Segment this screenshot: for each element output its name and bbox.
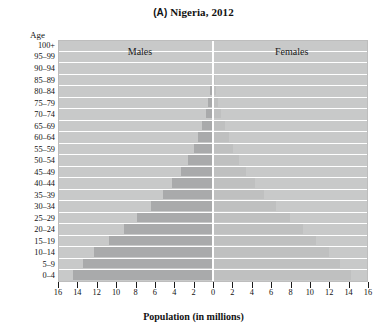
y-tick-label-70-74: 70–74 xyxy=(3,110,55,119)
y-tick-label-75-79: 75–79 xyxy=(3,99,55,108)
y-tick-label-30-34: 30–34 xyxy=(3,202,55,211)
age-axis-title: Age xyxy=(30,30,45,40)
y-tick-label-95-99: 95–99 xyxy=(3,52,55,61)
bar-female-15-19 xyxy=(213,236,316,245)
y-tick-label-15-19: 15–19 xyxy=(3,237,55,246)
y-tick-label-35-39: 35–39 xyxy=(3,191,55,200)
bar-female-75-79 xyxy=(213,98,218,107)
y-tick-label-45-49: 45–49 xyxy=(3,168,55,177)
y-tick-label-80-84: 80–84 xyxy=(3,87,55,96)
bar-male-25-29 xyxy=(137,213,213,222)
bar-male-55-59 xyxy=(194,144,213,153)
x-axis: 1614121086420246810121416 xyxy=(58,282,368,292)
x-axis-title: Population (in millions) xyxy=(0,311,387,322)
x-tick-label-10: 4 xyxy=(242,288,262,297)
bar-male-60-64 xyxy=(198,132,213,141)
bar-male-20-24 xyxy=(124,224,213,233)
x-tick-label-15: 14 xyxy=(339,288,359,297)
x-tick-label-9: 2 xyxy=(222,288,242,297)
bar-female-25-29 xyxy=(213,213,290,222)
bar-female-50-54 xyxy=(213,155,239,164)
bar-male-10-14 xyxy=(94,247,213,256)
bar-female-30-34 xyxy=(213,201,276,210)
bar-female-10-14 xyxy=(213,247,329,256)
y-tick-label-60-64: 60–64 xyxy=(3,133,55,142)
x-tick-label-7: 2 xyxy=(184,288,204,297)
bar-male-0-4 xyxy=(73,270,213,279)
y-tick-label-5-9: 5–9 xyxy=(3,260,55,269)
chart-title-text: Nigeria, 2012 xyxy=(167,6,233,18)
x-tick-label-13: 10 xyxy=(300,288,320,297)
bar-male-40-44 xyxy=(172,178,213,187)
x-tick-label-16: 16 xyxy=(358,288,378,297)
females-group-label: Females xyxy=(275,46,308,57)
x-tick-label-0: 16 xyxy=(48,288,68,297)
y-tick-label-90-94: 90–94 xyxy=(3,64,55,73)
x-tick-label-12: 8 xyxy=(281,288,301,297)
bar-female-20-24 xyxy=(213,224,303,233)
bar-female-5-9 xyxy=(213,259,340,268)
y-tick-label-65-69: 65–69 xyxy=(3,122,55,131)
y-tick-label-55-59: 55–59 xyxy=(3,145,55,154)
x-tick-label-5: 6 xyxy=(145,288,165,297)
y-tick-label-40-44: 40–44 xyxy=(3,179,55,188)
x-tick-label-2: 12 xyxy=(87,288,107,297)
bar-female-60-64 xyxy=(213,132,229,141)
bar-male-45-49 xyxy=(181,167,213,176)
chart-title: (A) Nigeria, 2012 xyxy=(0,6,387,18)
bar-female-0-4 xyxy=(213,270,351,279)
bar-female-55-59 xyxy=(213,144,233,153)
bar-male-50-54 xyxy=(188,155,213,164)
x-tick-label-14: 12 xyxy=(319,288,339,297)
y-tick-label-10-14: 10–14 xyxy=(3,248,55,257)
bar-female-35-39 xyxy=(213,190,264,199)
bar-male-15-19 xyxy=(109,236,213,245)
bar-female-40-44 xyxy=(213,178,255,187)
panel-letter: (A) xyxy=(153,7,167,18)
y-tick-label-50-54: 50–54 xyxy=(3,156,55,165)
plot-area xyxy=(58,40,368,282)
x-tick-label-4: 8 xyxy=(126,288,146,297)
figure-root: (A) Nigeria, 2012 Age 100+95–9990–9485–8… xyxy=(0,0,387,335)
x-tick-label-11: 6 xyxy=(261,288,281,297)
x-tick-label-3: 10 xyxy=(106,288,126,297)
y-axis-labels: 100+95–9990–9485–8980–8475–7970–7465–696… xyxy=(0,40,55,282)
x-tick-label-8: 0 xyxy=(203,288,223,297)
x-tick-label-6: 4 xyxy=(164,288,184,297)
males-group-label: Males xyxy=(128,46,152,57)
x-tick-label-1: 14 xyxy=(67,288,87,297)
y-tick-label-20-24: 20–24 xyxy=(3,225,55,234)
bar-male-35-39 xyxy=(163,190,213,199)
y-tick-label-85-89: 85–89 xyxy=(3,76,55,85)
bar-male-30-34 xyxy=(151,201,213,210)
y-tick-label-100+: 100+ xyxy=(3,41,55,50)
bar-female-45-49 xyxy=(213,167,246,176)
bar-female-70-74 xyxy=(213,109,221,118)
y-tick-label-0-4: 0–4 xyxy=(3,271,55,280)
bar-female-65-69 xyxy=(213,121,225,130)
center-axis-line xyxy=(212,40,213,282)
y-tick-label-25-29: 25–29 xyxy=(3,214,55,223)
bar-male-5-9 xyxy=(83,259,213,268)
